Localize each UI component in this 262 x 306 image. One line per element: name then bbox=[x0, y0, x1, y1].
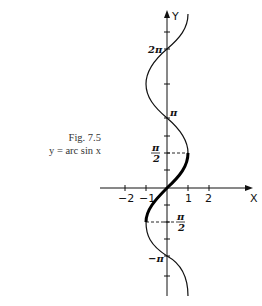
svg-text:π: π bbox=[176, 211, 185, 222]
x-axis: −2 −1 1 2 X bbox=[100, 185, 258, 205]
y-tick-2pi: 2π bbox=[147, 44, 163, 55]
x-tick-neg2: −2 bbox=[118, 192, 134, 205]
y-tick-neg-pi-half: π 2 bbox=[176, 211, 185, 233]
y-tick-neg-pi: −π bbox=[148, 253, 164, 264]
svg-text:π: π bbox=[151, 142, 160, 153]
x-tick-1: 1 bbox=[185, 192, 192, 205]
y-tick-pi: π bbox=[169, 107, 178, 118]
y-axis-arrow-icon bbox=[164, 10, 170, 18]
arcsin-plot: −2 −1 1 2 X Y 2π π π 2 π 2 bbox=[0, 0, 262, 306]
x-tick-2: 2 bbox=[205, 192, 212, 205]
svg-text:2: 2 bbox=[152, 153, 160, 164]
y-tick-pi-half: π 2 bbox=[151, 142, 160, 164]
y-axis-label: Y bbox=[171, 10, 179, 23]
x-axis-label: X bbox=[250, 192, 258, 205]
svg-text:2: 2 bbox=[177, 222, 185, 233]
x-axis-arrow-icon bbox=[245, 185, 253, 191]
